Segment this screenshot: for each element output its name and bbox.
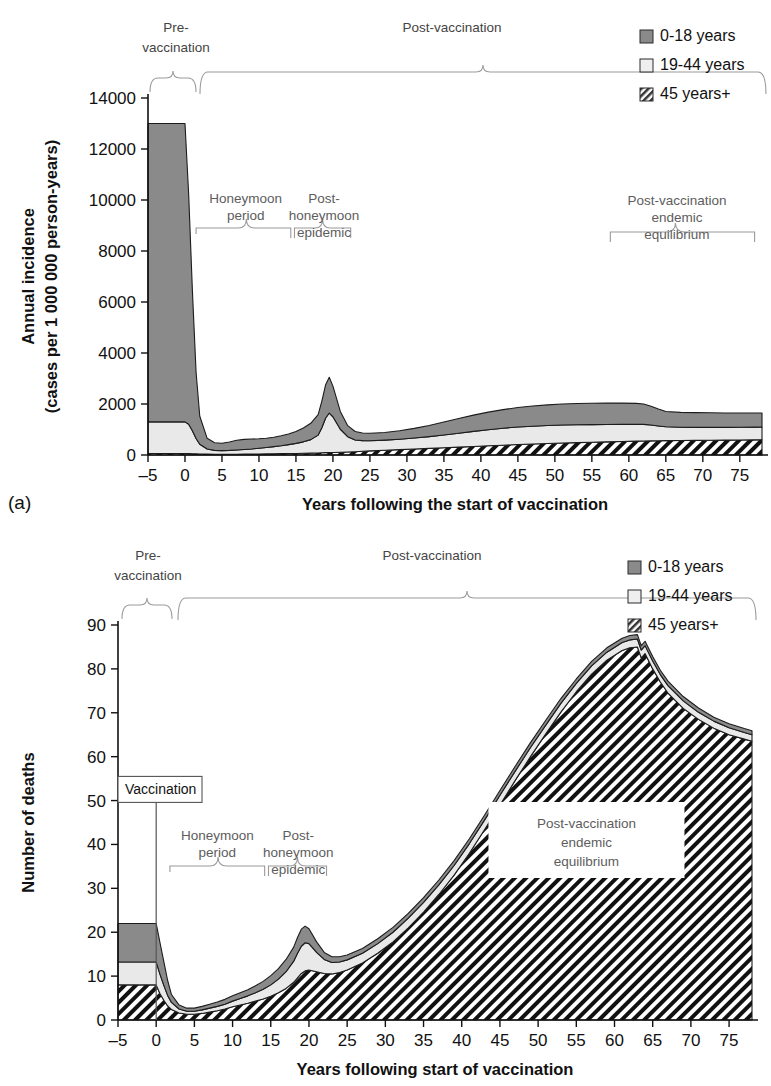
y-tick-label: 8000 [98, 242, 136, 261]
legend-swatch-solid-gray [628, 561, 641, 574]
x-tick-label: 55 [567, 1031, 586, 1050]
vaccination-callout-label: Vaccination [125, 781, 196, 797]
y-tick-label: 12000 [89, 140, 136, 159]
x-axis-title: Years following start of vaccination [297, 1060, 574, 1078]
x-tick-label: 0 [180, 466, 189, 485]
x-tick-label: 50 [529, 1031, 548, 1050]
chart-panel-b: 0102030405060708090–50510152025303540455… [0, 530, 771, 1086]
label-pre-vaccination-line1: Pre- [163, 20, 189, 35]
x-axis-title: Years following the start of vaccination [302, 495, 608, 513]
label-pre-vaccination-line2: vaccination [142, 40, 210, 55]
x-tick-label: 75 [730, 466, 749, 485]
label-posthoneymoon-line1: Post- [308, 191, 340, 206]
y-axis-title: Number of deaths [19, 752, 37, 892]
x-tick-label: –5 [139, 466, 158, 485]
label-endemic-line3: equilibrium [644, 227, 709, 242]
x-tick-label: 60 [619, 466, 638, 485]
legend-swatch-empty-white [628, 590, 641, 603]
label-endemic-line1: Post-vaccination [537, 816, 636, 831]
x-tick-label: 50 [545, 466, 564, 485]
legend-label: 19-44 years [660, 56, 745, 73]
y-tick-label: 2000 [98, 395, 136, 414]
legend-swatch-hatched [640, 88, 653, 101]
y-tick-label: 10 [87, 967, 106, 986]
x-tick-label: 40 [471, 466, 490, 485]
x-tick-label: 10 [250, 466, 269, 485]
x-tick-label: 0 [151, 1031, 160, 1050]
x-tick-label: 15 [261, 1031, 280, 1050]
x-tick-label: 70 [681, 1031, 700, 1050]
label-endemic-line2: endemic [561, 835, 612, 850]
x-tick-label: –5 [109, 1031, 128, 1050]
label-pre-vaccination-line1: Pre- [135, 548, 161, 563]
label-posthoneymoon-line2: honeymoon [289, 208, 360, 223]
label-posthoneymoon-line3: epidemic [297, 225, 351, 240]
x-tick-label: 30 [397, 466, 416, 485]
y-tick-label: 40 [87, 835, 106, 854]
label-honeymoon-line1: Honeymoon [181, 828, 254, 843]
y-tick-label: 60 [87, 748, 106, 767]
x-tick-label: 60 [605, 1031, 624, 1050]
label-honeymoon-line2: period [227, 208, 265, 223]
x-tick-label: 45 [508, 466, 527, 485]
legend-label: 19-44 years [648, 587, 733, 604]
y-tick-label: 14000 [89, 89, 136, 108]
x-tick-label: 70 [693, 466, 712, 485]
y-tick-label: 70 [87, 704, 106, 723]
y-axis-title-line2: (cases per 1 000 000 person-years) [42, 140, 60, 413]
x-tick-label: 75 [720, 1031, 739, 1050]
label-endemic-line3: equilibrium [554, 854, 619, 869]
x-tick-label: 40 [452, 1031, 471, 1050]
x-tick-label: 35 [434, 466, 453, 485]
y-axis-title-line1: Annual incidence [19, 208, 37, 345]
area-series-0-18-years [148, 124, 762, 451]
brace-pre-vaccination [150, 71, 196, 92]
legend-label: 0-18 years [660, 27, 736, 44]
y-tick-label: 90 [87, 616, 106, 635]
x-tick-label: 45 [490, 1031, 509, 1050]
y-tick-label: 0 [127, 446, 136, 465]
y-tick-label: 30 [87, 879, 106, 898]
x-tick-label: 5 [217, 466, 226, 485]
x-tick-label: 5 [190, 1031, 199, 1050]
x-tick-label: 65 [643, 1031, 662, 1050]
label-posthoneymoon-line3: epidemic [271, 862, 325, 877]
y-tick-label: 20 [87, 923, 106, 942]
legend-swatch-solid-gray [640, 30, 653, 43]
label-honeymoon-line1: Honeymoon [209, 191, 282, 206]
legend-label: 0-18 years [648, 558, 724, 575]
label-posthoneymoon-line2: honeymoon [263, 845, 334, 860]
legend-swatch-hatched [628, 619, 641, 632]
incidence-chart-svg: 02000400060008000100001200014000–5051015… [0, 0, 771, 530]
x-tick-label: 20 [300, 1031, 319, 1050]
label-endemic-line1: Post-vaccination [627, 193, 726, 208]
x-tick-label: 35 [414, 1031, 433, 1050]
y-tick-label: 0 [97, 1011, 106, 1030]
label-endemic-line2: endemic [651, 210, 702, 225]
label-post-vaccination: Post-vaccination [402, 20, 501, 35]
x-tick-label: 30 [376, 1031, 395, 1050]
x-tick-label: 25 [360, 466, 379, 485]
legend-swatch-empty-white [640, 59, 653, 72]
y-tick-label: 10000 [89, 191, 136, 210]
y-tick-label: 80 [87, 660, 106, 679]
legend-label: 45 years+ [648, 616, 719, 633]
x-tick-label: 15 [286, 466, 305, 485]
legend-label: 45 years+ [660, 85, 731, 102]
y-tick-label: 6000 [98, 293, 136, 312]
x-tick-label: 10 [223, 1031, 242, 1050]
deaths-chart-svg: 0102030405060708090–50510152025303540455… [0, 530, 771, 1086]
panel-label-a: (a) [8, 492, 31, 514]
x-tick-label: 25 [338, 1031, 357, 1050]
y-tick-label: 4000 [98, 344, 136, 363]
x-tick-label: 55 [582, 466, 601, 485]
x-tick-label: 65 [656, 466, 675, 485]
y-tick-label: 50 [87, 792, 106, 811]
label-posthoneymoon-line1: Post- [283, 828, 315, 843]
label-post-vaccination: Post-vaccination [382, 548, 481, 563]
brace-pre-vaccination [122, 598, 172, 619]
x-tick-label: 20 [323, 466, 342, 485]
chart-panel-a: 02000400060008000100001200014000–5051015… [0, 0, 771, 530]
label-pre-vaccination-line2: vaccination [114, 568, 182, 583]
label-honeymoon-line2: period [199, 845, 237, 860]
